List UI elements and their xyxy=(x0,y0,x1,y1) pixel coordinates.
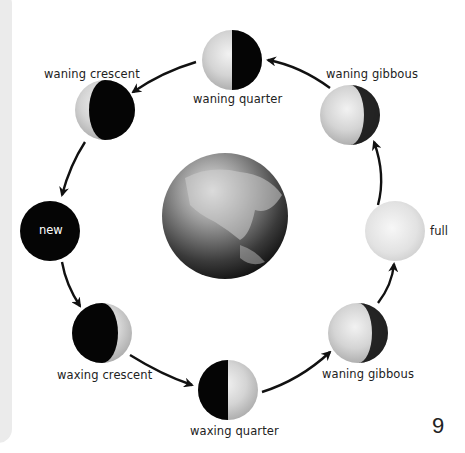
moon-waning-gibbous-top xyxy=(320,85,380,145)
moon-full xyxy=(365,201,425,261)
label-full: full xyxy=(430,224,448,238)
label-waxing-quarter: waxing quarter xyxy=(190,424,279,438)
page-number: 9 xyxy=(432,413,444,439)
moon-waxing-crescent xyxy=(72,303,132,363)
label-waning-gibbous-top: waning gibbous xyxy=(326,67,418,81)
label-waning-gibbous-bottom: waning gibbous xyxy=(322,367,414,381)
moon-waxing-quarter xyxy=(198,360,258,420)
moon-waning-gibbous-bottom xyxy=(328,303,388,363)
label-waning-quarter: waning quarter xyxy=(193,92,282,106)
moon-waning-quarter xyxy=(202,30,262,90)
label-waxing-crescent: waxing crescent xyxy=(57,368,152,382)
moon-waning-crescent xyxy=(75,80,135,140)
earth-globe xyxy=(162,153,288,279)
label-new: new xyxy=(39,223,63,237)
label-waning-crescent: waning crescent xyxy=(44,67,140,81)
